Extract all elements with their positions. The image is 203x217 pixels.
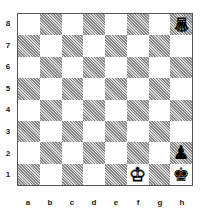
- square-e2[interactable]: [105, 142, 127, 163]
- square-b2[interactable]: [40, 142, 62, 163]
- square-a6[interactable]: [18, 57, 40, 78]
- square-b4[interactable]: [40, 100, 62, 121]
- square-f8[interactable]: [127, 14, 149, 35]
- square-g8[interactable]: [149, 14, 171, 35]
- square-d5[interactable]: [83, 78, 105, 99]
- square-b5[interactable]: [40, 78, 62, 99]
- rank-label: 1: [3, 170, 13, 179]
- square-d2[interactable]: [83, 142, 105, 163]
- square-h3[interactable]: [170, 121, 192, 142]
- square-e8[interactable]: [105, 14, 127, 35]
- square-f1[interactable]: ♔: [127, 164, 149, 185]
- square-g5[interactable]: [149, 78, 171, 99]
- square-f3[interactable]: [127, 121, 149, 142]
- square-h6[interactable]: [170, 57, 192, 78]
- square-a8[interactable]: [18, 14, 40, 35]
- square-e5[interactable]: [105, 78, 127, 99]
- square-c8[interactable]: [62, 14, 84, 35]
- square-c6[interactable]: [62, 57, 84, 78]
- square-h8[interactable]: ♕: [170, 14, 192, 35]
- square-d8[interactable]: [83, 14, 105, 35]
- square-c5[interactable]: [62, 78, 84, 99]
- file-label: f: [127, 198, 149, 207]
- square-h4[interactable]: [170, 100, 192, 121]
- square-d7[interactable]: [83, 35, 105, 56]
- black-pawn-icon[interactable]: ♟: [173, 143, 190, 162]
- file-label: d: [83, 198, 105, 207]
- square-c4[interactable]: [62, 100, 84, 121]
- square-a1[interactable]: [18, 164, 40, 185]
- square-c3[interactable]: [62, 121, 84, 142]
- square-f7[interactable]: [127, 35, 149, 56]
- square-d4[interactable]: [83, 100, 105, 121]
- rank-label: 5: [3, 84, 13, 93]
- square-a4[interactable]: [18, 100, 40, 121]
- square-e1[interactable]: [105, 164, 127, 185]
- rank-label: 4: [3, 105, 13, 114]
- black-king-icon[interactable]: ♚: [173, 165, 190, 184]
- square-h5[interactable]: [170, 78, 192, 99]
- square-d1[interactable]: [83, 164, 105, 185]
- square-d6[interactable]: [83, 57, 105, 78]
- white-queen-icon[interactable]: ♕: [173, 15, 190, 34]
- square-h7[interactable]: [170, 35, 192, 56]
- square-g7[interactable]: [149, 35, 171, 56]
- file-label: h: [171, 198, 193, 207]
- square-a5[interactable]: [18, 78, 40, 99]
- file-label: b: [39, 198, 61, 207]
- square-g2[interactable]: [149, 142, 171, 163]
- rank-label: 3: [3, 127, 13, 136]
- square-g1[interactable]: [149, 164, 171, 185]
- square-g4[interactable]: [149, 100, 171, 121]
- square-b8[interactable]: [40, 14, 62, 35]
- square-b7[interactable]: [40, 35, 62, 56]
- square-f6[interactable]: [127, 57, 149, 78]
- square-b6[interactable]: [40, 57, 62, 78]
- square-a7[interactable]: [18, 35, 40, 56]
- file-label: a: [17, 198, 39, 207]
- square-c2[interactable]: [62, 142, 84, 163]
- square-h2[interactable]: ♟: [170, 142, 192, 163]
- rank-label: 6: [3, 62, 13, 71]
- square-b3[interactable]: [40, 121, 62, 142]
- rank-label: 7: [3, 41, 13, 50]
- file-label: g: [149, 198, 171, 207]
- square-h1[interactable]: ♚: [170, 164, 192, 185]
- square-a2[interactable]: [18, 142, 40, 163]
- rank-label: 8: [3, 19, 13, 28]
- square-e3[interactable]: [105, 121, 127, 142]
- square-e6[interactable]: [105, 57, 127, 78]
- square-f4[interactable]: [127, 100, 149, 121]
- square-g3[interactable]: [149, 121, 171, 142]
- square-e7[interactable]: [105, 35, 127, 56]
- square-b1[interactable]: [40, 164, 62, 185]
- chess-board: ♕♟♔♚: [17, 13, 193, 186]
- square-c1[interactable]: [62, 164, 84, 185]
- square-e4[interactable]: [105, 100, 127, 121]
- white-king-icon[interactable]: ♔: [129, 165, 146, 184]
- square-a3[interactable]: [18, 121, 40, 142]
- square-d3[interactable]: [83, 121, 105, 142]
- square-c7[interactable]: [62, 35, 84, 56]
- square-g6[interactable]: [149, 57, 171, 78]
- file-label: c: [61, 198, 83, 207]
- file-label: e: [105, 198, 127, 207]
- square-f5[interactable]: [127, 78, 149, 99]
- square-f2[interactable]: [127, 142, 149, 163]
- rank-label: 2: [3, 149, 13, 158]
